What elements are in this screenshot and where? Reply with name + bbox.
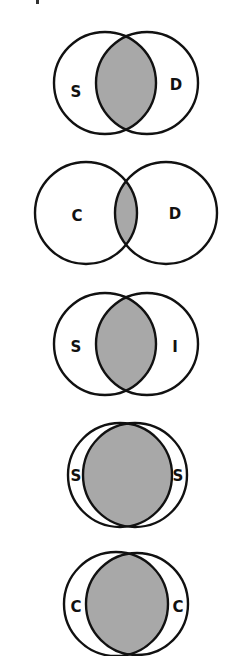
- venn-diagram-s-i: SI: [54, 293, 198, 395]
- left-label: S: [71, 83, 82, 101]
- left-label: S: [71, 338, 82, 356]
- left-label: C: [71, 207, 82, 225]
- venn-diagram-c-d: CD: [35, 162, 217, 264]
- venn-diagram-s-d: SD: [54, 32, 198, 134]
- left-label: C: [70, 598, 81, 616]
- venn-diagram-s-s: SS: [68, 423, 187, 527]
- right-label: C: [172, 598, 183, 616]
- right-label: D: [169, 205, 181, 223]
- venn-diagram-c-c: CC: [64, 552, 188, 656]
- right-label: S: [173, 467, 184, 485]
- venn-diagram-stack: SDCDSISSCC: [0, 0, 229, 656]
- right-label: D: [170, 76, 182, 94]
- right-label: I: [172, 338, 178, 356]
- left-label: S: [71, 467, 82, 485]
